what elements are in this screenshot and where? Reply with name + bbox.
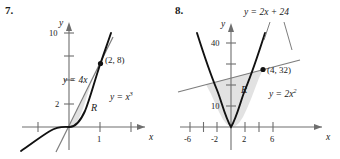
intersection-point-7 bbox=[98, 61, 103, 66]
region-label-8: R bbox=[241, 84, 247, 95]
x-tick-label-8-neg2: -2 bbox=[211, 135, 218, 144]
figure-sheet: 7. bbox=[0, 0, 340, 159]
curve-equation-label-8: y = 2x2 bbox=[269, 90, 297, 100]
leader-line-left-8 bbox=[264, 22, 270, 40]
leader-line-right-8 bbox=[284, 22, 292, 50]
figure-panel-7: 7. bbox=[0, 0, 170, 159]
x-tick-label-8-2: 2 bbox=[242, 135, 246, 144]
x-axis-label-7: x bbox=[149, 133, 153, 143]
x-tick-label-7-1: 1 bbox=[97, 135, 101, 144]
region-label-7: R bbox=[91, 102, 97, 113]
figure-panel-8: 8. bbox=[170, 0, 340, 159]
line-equation-label-8: y = 2x + 24 bbox=[244, 8, 289, 18]
y-axis-label-7: y bbox=[59, 19, 63, 29]
x-axis-arrow-8 bbox=[314, 124, 322, 130]
line-equation-label-7: y = 4x bbox=[63, 76, 87, 86]
y-tick-label-8-10: 10 bbox=[211, 102, 220, 111]
plot-8 bbox=[170, 0, 340, 159]
curve-equation-label-7: y = x3 bbox=[110, 93, 133, 103]
x-tick-label-8-6: 6 bbox=[270, 135, 274, 144]
x-axis-label-8: x bbox=[326, 133, 330, 143]
point-label-7: (2, 8) bbox=[105, 56, 125, 65]
y-axis-arrow-8 bbox=[228, 23, 234, 32]
y-tick-label-7-10: 10 bbox=[49, 29, 58, 38]
point-label-8: (4, 32) bbox=[267, 66, 291, 75]
y-axis-label-8: y bbox=[221, 20, 225, 30]
x-tick-label-8-neg6: -6 bbox=[184, 135, 191, 144]
y-axis-arrow-7 bbox=[66, 22, 72, 31]
x-axis-arrow-7 bbox=[137, 124, 145, 130]
y-tick-label-7-2: 2 bbox=[55, 100, 59, 109]
intersection-point-8 bbox=[260, 67, 265, 72]
y-tick-label-8-40: 40 bbox=[211, 39, 220, 48]
